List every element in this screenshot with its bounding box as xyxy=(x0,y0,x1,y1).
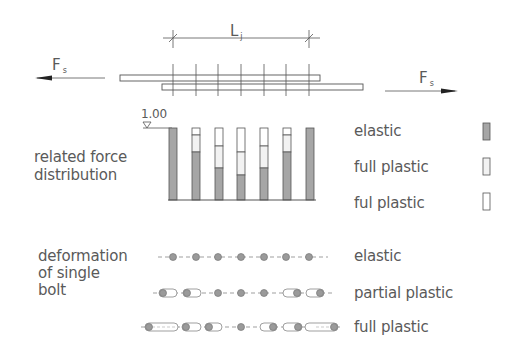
bolt-deformation-label-2: of single xyxy=(38,264,100,282)
bar-4 xyxy=(237,128,245,200)
swatch-ful-plastic xyxy=(483,193,490,210)
bolt-deformation-label-1: deformation xyxy=(38,247,127,265)
legend-label-full-plastic: full plastic xyxy=(354,158,428,176)
scale-label: 1.00 xyxy=(141,105,167,123)
bolt-row-full-plastic xyxy=(141,323,340,331)
legend-label-ful-plastic: ful plastic xyxy=(354,194,425,212)
bar-1 xyxy=(169,128,177,200)
bolt-row-elastic xyxy=(158,254,328,261)
force-distribution-label-2: distribution xyxy=(34,166,117,184)
bolt-row-partial-plastic xyxy=(153,289,332,297)
upper-plate xyxy=(120,75,320,81)
legend-swatches xyxy=(483,123,490,210)
force-right-symbol: Fs xyxy=(419,69,434,88)
bar-5 xyxy=(260,128,268,200)
bar-2 xyxy=(192,128,200,200)
bar-6 xyxy=(283,128,291,200)
swatch-elastic xyxy=(483,123,490,140)
force-arrow-left xyxy=(35,76,105,81)
bar-3 xyxy=(215,128,223,200)
length-symbol: Lj xyxy=(230,22,243,41)
lap-joint-plates xyxy=(120,75,363,90)
legend-label-elastic: elastic xyxy=(354,122,401,140)
bar-7 xyxy=(306,128,314,200)
lower-plate xyxy=(162,84,363,90)
swatch-full-plastic xyxy=(483,158,490,175)
bolt-deformation-label-3: bolt xyxy=(38,281,66,299)
force-distribution-label-1: related force xyxy=(34,148,127,166)
force-left-symbol: Fs xyxy=(52,56,67,75)
bolt-row-label-partial-plastic: partial plastic xyxy=(354,284,453,302)
force-distribution-bars xyxy=(168,128,316,200)
bolt-row-label-elastic: elastic xyxy=(354,247,401,265)
force-arrow-right xyxy=(385,89,458,94)
bolt-row-label-full-plastic: full plastic xyxy=(354,318,428,336)
